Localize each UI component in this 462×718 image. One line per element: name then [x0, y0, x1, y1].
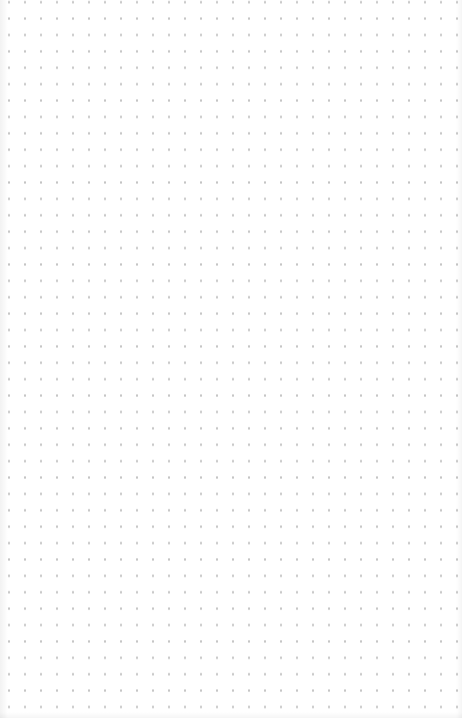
right-edge-shadow	[456, 0, 462, 718]
bottom-edge-shadow	[0, 712, 462, 718]
dot-grid-canvas[interactable]	[0, 0, 462, 718]
left-edge-shadow	[0, 0, 8, 718]
